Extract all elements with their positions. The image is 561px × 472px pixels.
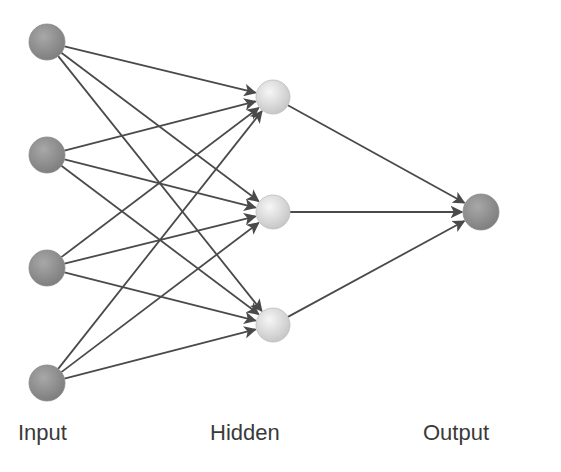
- edge-i4-h1: [58, 111, 262, 369]
- output-node-o1: [463, 194, 499, 230]
- input-node-i2: [29, 137, 65, 173]
- edge-i2-h1: [64, 101, 255, 150]
- edge-h3-o1: [288, 221, 464, 317]
- input-node-i4: [29, 365, 65, 401]
- hidden-node-h3: [256, 308, 290, 342]
- output-layer-label: Output: [423, 420, 489, 446]
- edge-i4-h3: [64, 329, 255, 378]
- hidden-layer-label: Hidden: [210, 420, 280, 446]
- edge-i1-h1: [64, 46, 255, 92]
- input-node-i1: [29, 24, 65, 60]
- hidden-node-h1: [256, 80, 290, 114]
- edge-h1-o1: [288, 105, 464, 203]
- input-node-i3: [29, 250, 65, 286]
- hidden-node-h2: [256, 195, 290, 229]
- edge-i3-h1: [61, 108, 258, 257]
- edge-i4-h2: [61, 223, 258, 372]
- edge-i1-h2: [61, 53, 258, 201]
- neural-network-diagram: [0, 0, 561, 472]
- input-layer-label: Input: [18, 420, 67, 446]
